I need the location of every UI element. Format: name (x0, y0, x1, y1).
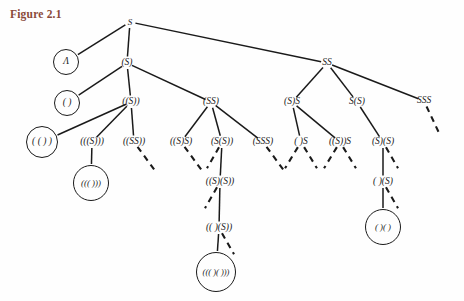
tree-node-terminal: ( ( ) ) (26, 126, 58, 158)
tree-node-layer: SΛ(S)SS( )((S))(SS)(S)SS(S)SSS( ( ) )(((… (0, 0, 464, 301)
tree-node: ((S))S (329, 137, 351, 147)
tree-node-terminal: ( ) (54, 90, 80, 116)
tree-node: (SSS) (253, 137, 274, 147)
tree-node: S (128, 18, 133, 27)
figure-canvas: Figure 2.1 SΛ(S)SS( )((S))(SS)(S)SS(S)SS… (0, 0, 464, 301)
tree-node: (S(S)) (211, 137, 233, 147)
tree-node: ((S)) (122, 97, 139, 107)
tree-node: ( )S (294, 137, 307, 147)
tree-node-terminal: ((( )( ))) (196, 252, 236, 292)
tree-node: (S)S (284, 97, 300, 107)
tree-node: ((S)S) (170, 137, 192, 147)
tree-node: (((S))) (80, 137, 104, 147)
tree-node: SSS (417, 96, 431, 106)
tree-node: (( )(S)) (206, 223, 232, 233)
tree-node: (S) (121, 58, 132, 68)
tree-node: (S)(S) (372, 137, 394, 147)
tree-node-terminal: ( )( ) (365, 209, 401, 245)
tree-node: ((SS)) (123, 137, 145, 147)
tree-node: (SS) (203, 97, 219, 107)
tree-node: S(S) (349, 97, 365, 107)
tree-node-terminal: ((( ))) (73, 165, 109, 201)
tree-node-terminal: Λ (53, 49, 79, 75)
tree-node: ((S)(S)) (206, 177, 234, 187)
tree-node: ( )(S) (373, 177, 393, 187)
tree-node: SS (322, 58, 332, 68)
